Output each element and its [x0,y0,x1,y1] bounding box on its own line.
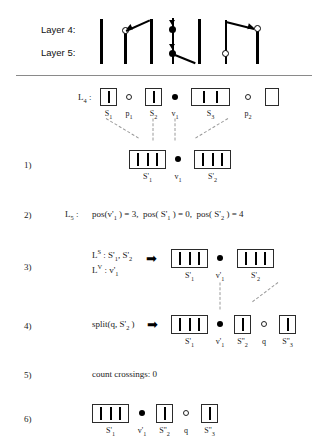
layer5-label: Layer 5: [41,47,75,58]
top-layer-diagram: Layer 4: Layer 5: [0,0,324,75]
row4-caption-vp1: v'1 [211,337,229,348]
horizontal-rule [16,75,312,76]
row-number-2: 2) [24,210,32,220]
point-p1 [126,94,132,100]
row6-box-Spp2 [156,404,173,423]
row3-box-Sp1 [171,249,208,268]
row1-caption-Sp2: S'2 [194,172,231,183]
row4-box-Spp3 [279,315,296,334]
row6-point-vp1 [139,410,145,416]
row5-count-crossings-text: count crossings: 0 [92,369,157,379]
row6-caption-vp1: v'1 [133,426,151,437]
row2-L5-label: L5 : [65,209,78,221]
caption-p2: p2 [240,109,256,120]
segment-bar-7 [256,30,259,64]
row-number-3: 3) [24,262,32,272]
dash-connector-6 [252,282,278,302]
caption-S2: S2 [145,109,162,120]
row1-box-Sp1 [129,150,166,169]
figure-canvas: Layer 4: Layer 5: L4 : S [0,0,324,448]
row-number-4: 4) [24,321,32,331]
row3-LV-label: LV : v'1 [92,263,118,277]
segment-bar-3 [150,19,153,64]
segment-bar-1 [100,19,103,64]
box-S2 [145,88,162,106]
arrowhead-b [169,20,175,25]
row4-box-Sp1 [171,315,208,334]
solid-node-a [169,26,176,33]
row-number-6: 6) [24,414,32,424]
row-l4-label: L4 : [78,92,91,104]
hollow-node-b [222,50,229,57]
row6-caption-Spp2: S''2 [153,426,176,437]
row3-caption-vp1: v'1 [211,271,229,282]
row3-caption-Sp1: S'1 [171,271,208,282]
layer4-label: Layer 4: [41,24,75,35]
edge-b [175,54,196,64]
dash-connector-4 [195,118,228,138]
row4-arrow-icon: ➡ [147,318,158,331]
row6-caption-q: q [180,426,192,435]
row6-point-q [183,410,189,416]
row-number-1: 1) [24,160,32,170]
row4-caption-q: q [258,337,270,346]
row-number-5: 5) [24,370,32,380]
row4-point-q [261,321,267,327]
segment-bar-5 [198,19,201,64]
box-S1 [100,88,117,106]
row4-split-label: split(q, S'2 ) [92,319,135,331]
row6-caption-Sp1: S'1 [92,426,129,437]
row1-box-Sp2 [194,150,231,169]
hollow-node-c [254,25,261,32]
arrowhead-a [125,24,133,32]
row3-box-Sp2 [237,249,274,268]
point-v1 [172,94,178,100]
caption-S1: S1 [100,109,117,120]
row1-caption-Sp1: S'1 [129,172,166,183]
row3-caption-Sp2: S'2 [237,271,274,282]
l4-colon: : [87,92,92,102]
segment-bar-6 [225,20,227,64]
point-p2 [245,94,251,100]
row4-point-vp1 [217,321,223,327]
row4-box-Spp2 [234,315,251,334]
box-empty [265,88,279,106]
row4-caption-Spp3: S''3 [276,337,299,348]
dash-connector-5 [220,283,221,310]
arrowhead-c [169,44,175,49]
row4-caption-Sp1: S'1 [171,337,208,348]
row3-LS-label: LS : S'1, S'2 [92,248,132,262]
box-S3 [191,88,230,106]
row4-caption-Spp2: S''2 [231,337,254,348]
dash-connector-1 [106,118,139,138]
caption-S3: S3 [191,109,230,120]
row3-arrow-icon: ➡ [146,252,157,265]
row6-box-Sp1 [92,404,129,423]
row6-box-Spp3 [201,404,218,423]
caption-p1: p1 [121,109,137,120]
dash-connector-3 [175,119,176,141]
row3-point-vp1 [217,255,223,261]
row2-positions-text: pos(v'1 ) = 3, pos( S'1 ) = 0, pos( S'2 … [92,209,244,221]
row6-caption-Spp3: S''3 [198,426,221,437]
row1-caption-v1: v1 [170,172,186,183]
row1-point-v1 [175,156,181,162]
dash-connector-2 [153,119,154,141]
